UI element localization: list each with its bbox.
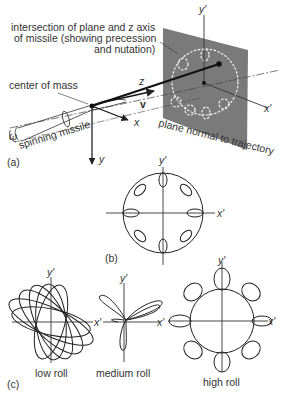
panel-a-tag: (a) <box>7 156 20 168</box>
intersection-annotation-line3: and nutation) <box>94 43 155 55</box>
x-prime-label-high: x′ <box>267 315 276 327</box>
y-prime-label-high: y′ <box>217 254 226 266</box>
y-prime-label-low: y′ <box>46 266 55 278</box>
x-prime-label-medium: x′ <box>156 316 165 328</box>
panel-c: y′ x′ low roll y′ x′ medium roll <box>3 254 276 390</box>
center-of-mass-point <box>90 104 95 109</box>
center-of-mass-label: center of mass <box>9 79 78 91</box>
low-roll-label: low roll <box>35 367 68 379</box>
medium-roll-plot: y′ x′ medium roll <box>96 272 165 379</box>
x-prime-label-a: x′ <box>263 102 272 114</box>
panel-c-tag: (c) <box>7 378 19 390</box>
z-axis-label: z <box>138 75 145 87</box>
high-roll-label: high roll <box>203 376 240 388</box>
low-roll-plot: y′ x′ low roll <box>3 266 102 379</box>
y-prime-label-a: y′ <box>198 3 207 15</box>
panel-b: y′ x′ (b) <box>105 154 225 265</box>
velocity-label: v <box>140 98 146 110</box>
y-prime-label-medium: y′ <box>119 272 128 284</box>
panel-a: intersection of plane and z axis of miss… <box>7 3 280 168</box>
x-axis <box>92 106 128 120</box>
x-axis-label: x <box>133 116 140 128</box>
y-prime-label-b: y′ <box>158 154 167 166</box>
velocity-vector <box>100 91 154 103</box>
medium-roll-label: medium roll <box>96 367 150 379</box>
high-roll-plot: y′ x′ high roll <box>168 254 276 388</box>
spinning-missile-label: spinning missile <box>17 118 92 151</box>
x-prime-label-low: x′ <box>93 316 102 328</box>
x-prime-label-b: x′ <box>216 207 225 219</box>
omega-label: ω <box>9 130 17 142</box>
panel-b-tag: (b) <box>105 252 118 264</box>
y-axis-label: y <box>98 153 105 165</box>
missile-precession-diagram: intersection of plane and z axis of miss… <box>0 0 284 396</box>
